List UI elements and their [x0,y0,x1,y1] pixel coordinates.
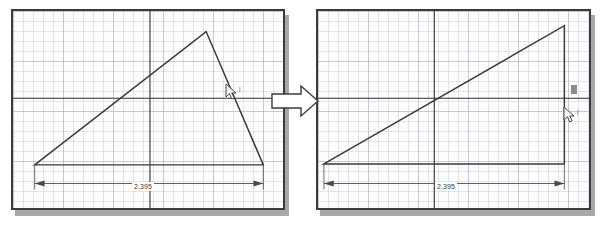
before-sketch-viewport[interactable]: 2.395 [11,9,285,210]
right-dimension-label[interactable]: 2.395 [435,182,457,191]
left-dimension-label[interactable]: 2.395 [132,182,154,191]
dimension-arrowhead-right [555,181,565,187]
right-cursor-tag: | [577,109,579,115]
dimension-arrowhead-right [253,181,263,187]
left-sketch-canvas [13,11,283,208]
block-arrow-right-icon [271,84,319,118]
sketch-triangle [324,26,564,164]
left-cursor-tag: | [239,86,241,92]
dimension-arrowhead-left [35,181,45,187]
vertical-constraint-glyph[interactable] [571,85,577,94]
dimension-arrowhead-left [324,181,334,187]
right-sketch-canvas [318,11,589,208]
after-sketch-viewport[interactable]: 2.395 [316,9,591,210]
screenshot-stage: 2.395 | 2.395 [0,0,611,226]
transition-arrow [271,84,319,118]
